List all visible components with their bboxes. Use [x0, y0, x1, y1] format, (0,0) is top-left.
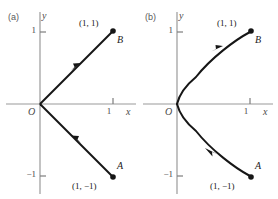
point-a-dot [110, 174, 116, 180]
y-tick-label-1: 1 [153, 25, 173, 35]
arrowhead-up-left-icon [71, 136, 81, 144]
point-b-label: B [255, 34, 261, 45]
origin-label: O [165, 106, 172, 117]
point-a-coords: (1, −1) [210, 181, 235, 191]
x-tick-label-1: 1 [104, 106, 114, 116]
point-b-label: B [117, 34, 123, 45]
x-axis-label: x [126, 106, 130, 117]
y-axis-label: y [179, 10, 183, 21]
segment-origin-to-b [41, 32, 113, 104]
point-b-dot [248, 28, 254, 34]
y-axis-label: y [42, 10, 46, 21]
point-b-coords: (1, 1) [79, 18, 99, 28]
y-tick-label-1: 1 [16, 25, 36, 35]
origin-label: O [28, 106, 35, 117]
y-tick-label-neg1: −1 [14, 169, 36, 179]
y-tick-label-neg1: −1 [151, 169, 173, 179]
segment-a-to-origin [41, 105, 113, 177]
point-a-coords: (1, −1) [72, 181, 97, 191]
point-b-dot [110, 28, 116, 34]
point-b-coords: (1, 1) [217, 18, 237, 28]
curve-a-to-origin [177, 104, 250, 176]
panel-b: (b) 1 −1 1 y x O (1, 1) B [139, 0, 278, 199]
point-a-label: A [117, 160, 123, 171]
arrowhead-up-right-icon [211, 45, 223, 52]
panel-a: (a) 1 −1 1 y x O (1, 1) B ( [0, 0, 139, 199]
x-axis-label: x [263, 106, 267, 117]
x-tick-label-1: 1 [241, 106, 251, 116]
point-a-dot [248, 174, 254, 180]
point-a-label: A [255, 160, 261, 171]
figure-container: (a) 1 −1 1 y x O (1, 1) B ( [0, 0, 278, 199]
curve-origin-to-b [177, 32, 250, 104]
